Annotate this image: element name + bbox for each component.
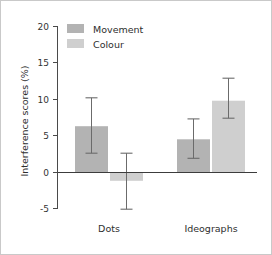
- errorbar-dots-colour: [121, 153, 133, 209]
- y-tick-label-0: 0: [43, 168, 49, 178]
- x-category-label-dots: Dots: [98, 223, 120, 234]
- x-category-label-ideographs: Ideographs: [184, 223, 237, 234]
- y-tick-label-10: 10: [38, 95, 50, 105]
- legend-label-movement: Movement: [93, 24, 144, 35]
- bar-group-ideographs: [177, 101, 245, 172]
- y-axis-title: Interference scores (%): [19, 65, 30, 176]
- chart-legend: Movement Colour: [67, 24, 144, 50]
- legend-swatch-colour: [67, 39, 84, 48]
- legend-swatch-movement: [67, 24, 84, 33]
- legend-label-colour: Colour: [93, 39, 124, 50]
- y-tick-label-5: 5: [43, 131, 49, 141]
- y-axis-ticks: [53, 27, 58, 209]
- x-axis-category-labels: Dots Ideographs: [98, 223, 238, 234]
- figure-container: Movement Colour 20 15 10 5 0: [0, 0, 272, 255]
- y-tick-label-neg5: -5: [40, 204, 49, 214]
- y-tick-label-15: 15: [38, 58, 49, 68]
- bar-chart-svg: Movement Colour 20 15 10 5 0: [1, 1, 272, 255]
- chart-plot-area: Movement Colour 20 15 10 5 0: [1, 1, 272, 255]
- y-tick-label-20: 20: [38, 22, 50, 32]
- y-axis-tick-labels: 20 15 10 5 0 -5: [38, 22, 50, 214]
